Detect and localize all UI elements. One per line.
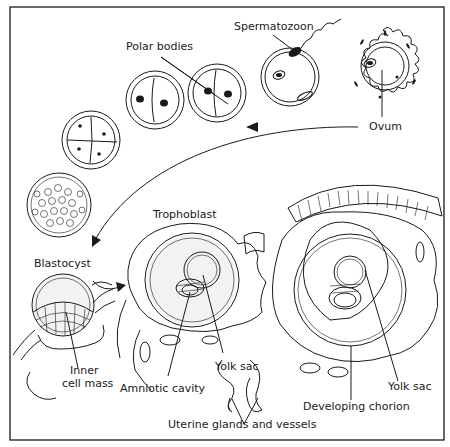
progression-arrow (95, 127, 358, 240)
chorion-stage (272, 185, 442, 400)
label-polar-bodies: Polar bodies (126, 40, 193, 53)
morula-stage (27, 173, 91, 237)
ovum-stage (353, 27, 419, 117)
label-blastocyst: Blastocyst (34, 257, 91, 270)
label-yolk-sac-2: Yolk sac (387, 380, 431, 393)
arrow-head-upper (246, 122, 258, 132)
embryo-development-diagram: Ovum Spermatozoon Polar bodies (0, 0, 450, 447)
label-amniotic-cavity: Amniotic cavity (120, 382, 206, 395)
label-inner-cell-mass-line1: Inner (70, 364, 99, 377)
label-developing-chorion: Developing chorion (303, 400, 410, 413)
label-inner-cell-mass-line2: cell mass (62, 377, 114, 390)
label-trophoblast: Trophoblast (152, 208, 217, 221)
label-uterine-glands: Uterine glands and vessels (168, 418, 317, 431)
early-two-cell-stage (126, 71, 184, 129)
four-cell-stage (62, 111, 120, 169)
label-ovum: Ovum (369, 120, 402, 133)
two-cell-stage (161, 57, 246, 122)
label-spermatozoon: Spermatozoon (234, 20, 314, 33)
